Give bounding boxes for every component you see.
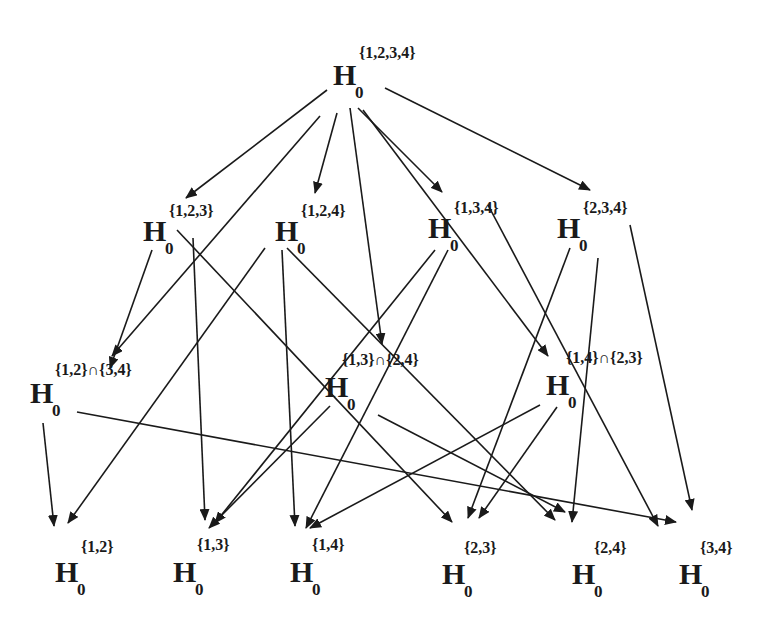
node-symbol: H [55,557,78,587]
node-superscript: {1,2,4} [301,203,346,219]
node-subscript: 0 [579,237,588,254]
edge-12-34-to-34 [77,412,676,522]
node-symbol: H [173,557,196,587]
node-symbol: H [428,213,451,243]
node-symbol: H [143,216,166,246]
node-superscript: {1,3} [197,537,230,553]
node-superscript: {1,4}∩{2,3} [566,350,643,366]
node-superscript: {1,2}∩{3,4} [55,362,132,378]
node-symbol: H [30,378,53,408]
edge-12-34-to-12 [43,423,54,526]
edge-13-24-to-24 [378,415,565,512]
edge-124-to-12 [68,248,265,523]
edge-1234-to-123 [186,90,327,198]
node-superscript: {1,4} [312,537,345,553]
edge-13-24-to-13 [209,406,330,528]
node-superscript: {2,3} [464,540,497,556]
node-subscript: 0 [450,237,459,254]
node-symbol: H [325,372,348,402]
node-subscript: 0 [77,581,86,598]
node-superscript: {2,4} [594,540,627,556]
edge-123-to-12 [110,250,152,368]
node-superscript: {1,2,3} [169,203,214,219]
node-subscript: 0 [568,394,577,411]
node-subscript: 0 [165,240,174,257]
node-subscript: 0 [297,240,306,257]
edge-123-to-23 [177,230,452,522]
node-symbol: H [572,559,595,589]
node-symbol: H [333,60,356,90]
edges-layer [0,0,767,619]
node-superscript: {2,3,4} [583,200,628,216]
node-subscript: 0 [195,581,204,598]
edge-14-23-to-14 [310,405,540,528]
node-symbol: H [275,216,298,246]
node-subscript: 0 [594,583,603,600]
node-subscript: 0 [312,581,321,598]
node-symbol: H [557,213,580,243]
edge-234-to-24 [572,258,598,522]
node-subscript: 0 [347,396,356,413]
node-superscript: {1,3}∩{2,4} [342,352,419,368]
edge-124-to-14 [282,250,295,526]
node-superscript: {1,2} [81,539,114,555]
node-symbol: H [546,370,569,400]
node-symbol: H [679,559,702,589]
edge-123-to-13 [193,238,205,520]
node-superscript: {3,4} [700,540,733,556]
node-subscript: 0 [355,84,364,101]
node-subscript: 0 [701,583,710,600]
node-superscript: {1,2,3,4} [359,45,416,61]
edge-1234-to-14-23 [363,110,548,356]
node-subscript: 0 [52,402,61,419]
edge-1234-to-234 [385,88,590,190]
node-superscript: {1,3,4} [454,200,499,216]
edge-234-to-34 [630,225,692,510]
edge-1234-to-124 [315,113,337,193]
edge-1234-to-13-24 [350,108,382,344]
node-subscript: 0 [464,583,473,600]
node-symbol: H [442,559,465,589]
hypothesis-closure-diagram: H 0 {1,2,3,4} H 0 {1,2,3} H 0 {1,2,4} H … [0,0,767,619]
node-symbol: H [290,557,313,587]
